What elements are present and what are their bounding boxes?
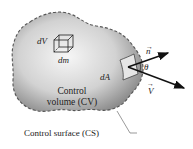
control-volume-diagram: dV dm dA n → V → θ Control volume (CV) C… [0, 0, 193, 149]
control-volume-label-line1: Control [57, 86, 86, 96]
control-volume-label-line2: volume (CV) [47, 97, 97, 108]
mass-element-label: dm [58, 55, 70, 65]
control-surface-label: Control surface (CS) [24, 128, 99, 138]
velocity-vector-arrow-accent: → [147, 80, 154, 88]
area-element-label: dA [100, 72, 111, 82]
control-surface-leader-line [117, 111, 137, 133]
volume-element-label: dV [37, 36, 49, 46]
normal-vector-arrow-accent: → [146, 43, 153, 51]
angle-label: θ [144, 62, 149, 72]
